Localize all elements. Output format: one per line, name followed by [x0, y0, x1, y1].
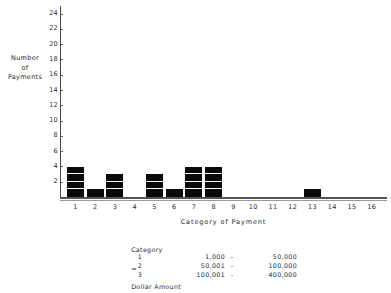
- category-key-dash: -: [225, 261, 239, 270]
- x-axis-tick-4: 4: [126, 203, 144, 211]
- x-axis-line-shadow: [60, 200, 387, 201]
- bar-segment: [106, 189, 123, 197]
- category-key-dash: -: [225, 270, 239, 279]
- bar-segment: [87, 189, 104, 197]
- category-key-header-amount: Dollar Amount: [131, 283, 181, 290]
- bar-segment: [146, 182, 163, 190]
- category-key-high: 100,000: [239, 261, 297, 270]
- category-key-row: 3100,001-400,000: [117, 270, 347, 279]
- bar-segment: [185, 174, 202, 182]
- x-axis-line: [60, 197, 387, 199]
- bar-category-7: [185, 167, 202, 198]
- category-key-row: 250,001-100,000: [117, 261, 347, 270]
- bar-segment: [146, 174, 163, 182]
- bar-segment: [67, 182, 84, 190]
- category-key-low: 50,001: [163, 261, 225, 270]
- category-key-number: 2: [117, 261, 163, 270]
- bar-series: [60, 6, 387, 197]
- x-axis-tick-14: 14: [323, 203, 341, 211]
- category-key-number: 3: [117, 270, 163, 279]
- bar-segment: [304, 189, 321, 197]
- x-axis-tick-13: 13: [304, 203, 322, 211]
- x-axis-label: Category of Payment: [60, 218, 387, 226]
- bar-category-1: [67, 167, 84, 198]
- bar-segment: [205, 167, 222, 175]
- x-axis-tick-8: 8: [205, 203, 223, 211]
- bar-category-6: [166, 189, 183, 197]
- category-key-rows: 11,000-50,000250,001-100,0003100,001-400…: [117, 252, 347, 280]
- category-key-high: 400,000: [239, 270, 297, 279]
- bar-category-13: [304, 189, 321, 197]
- bar-segment: [106, 182, 123, 190]
- bar-segment: [185, 182, 202, 190]
- bar-segment: [146, 189, 163, 197]
- x-axis-tick-12: 12: [284, 203, 302, 211]
- x-axis-tick-1: 1: [66, 203, 84, 211]
- bar-category-3: [106, 174, 123, 197]
- x-axis-tick-7: 7: [185, 203, 203, 211]
- bar-segment: [67, 174, 84, 182]
- bar-category-5: [146, 174, 163, 197]
- x-axis-tick-11: 11: [264, 203, 282, 211]
- bar-segment: [185, 189, 202, 197]
- bar-segment: [67, 189, 84, 197]
- x-axis-tick-16: 16: [363, 203, 381, 211]
- bar-segment: [106, 174, 123, 182]
- x-axis-tick-6: 6: [165, 203, 183, 211]
- x-axis-tick-10: 10: [244, 203, 262, 211]
- category-key-dash: -: [225, 252, 239, 261]
- bar-segment: [205, 174, 222, 182]
- category-key-high: 50,000: [239, 252, 297, 261]
- bar-segment: [67, 167, 84, 175]
- bar-category-8: [205, 167, 222, 198]
- bar-segment: [185, 167, 202, 175]
- bar-category-2: [87, 189, 104, 197]
- x-axis-tick-2: 2: [86, 203, 104, 211]
- bar-segment: [205, 189, 222, 197]
- x-axis-tick-3: 3: [106, 203, 124, 211]
- x-axis-tick-5: 5: [145, 203, 163, 211]
- bar-segment: [205, 182, 222, 190]
- x-axis-tick-15: 15: [343, 203, 361, 211]
- category-key-row: 11,000-50,000: [117, 252, 347, 261]
- category-key-low: 100,001: [163, 270, 225, 279]
- x-axis-tick-9: 9: [224, 203, 242, 211]
- category-key-low: 1,000: [163, 252, 225, 261]
- bar-segment: [166, 189, 183, 197]
- category-key-number: 1: [117, 252, 163, 261]
